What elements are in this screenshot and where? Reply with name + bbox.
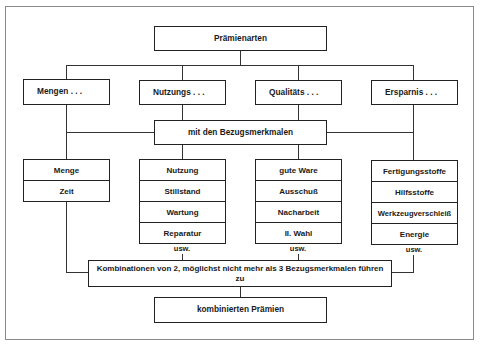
combination-box: Kombinationen von 2, möglichst nicht meh… [88,260,392,287]
category-label: Ersparnis . . . [385,88,437,98]
connector-line [413,105,414,160]
connector-line [327,132,413,133]
list-item: Menge [24,160,109,180]
connector-line [240,51,241,65]
list-item: Energie [372,223,457,244]
etc-label: usw. [278,244,318,253]
connector-line [182,145,183,159]
reference-criteria-label: mit den Bezugsmerkmalen [188,128,293,138]
list-item: Nutzung [140,160,225,180]
criteria-list-qualitaet: gute Ware Ausschuß Nacharbeit II. Wahl [255,159,342,244]
connector-line [66,202,67,272]
connector-line [240,287,241,297]
criteria-list-mengen: Menge Zeit [23,159,110,202]
category-box-qualitaets: Qualitäts . . . [255,80,342,105]
category-label: Mengen . . . [37,87,82,97]
list-item: II. Wahl [256,222,341,243]
list-item: gute Ware [256,160,341,180]
reference-criteria-box: mit den Bezugsmerkmalen [154,120,327,145]
category-box-mengen: Mengen . . . [23,79,110,105]
list-item: Reparatur [140,222,225,243]
combination-label: Kombinationen von 2, möglichst nicht meh… [95,264,385,283]
list-item: Wartung [140,201,225,222]
connector-line [298,65,299,80]
category-label: Nutzungs . . . [153,88,205,98]
connector-line [66,132,154,133]
connector-line [66,65,67,79]
category-box-nutzungs: Nutzungs . . . [139,80,226,105]
result-label: kombinierten Prämien [197,305,284,315]
list-item: Hilfsstoffe [372,181,457,202]
connector-line [298,145,299,159]
list-item: Nacharbeit [256,201,341,222]
criteria-list-ersparnis: Fertigungsstoffe Hilfsstoffe Werkzeugver… [371,160,458,245]
etc-label: usw. [394,245,434,254]
category-label: Qualitäts . . . [269,88,318,98]
list-item: Werkzeugverschleiß [372,202,457,223]
etc-label: usw. [162,244,202,253]
connector-line [182,65,183,80]
criteria-list-nutzung: Nutzung Stillstand Wartung Reparatur [139,159,226,244]
connector-line [66,65,414,66]
connector-line [182,105,183,120]
list-item: Stillstand [140,180,225,201]
result-box: kombinierten Prämien [154,297,327,323]
connector-line [413,255,414,272]
category-box-ersparnis: Ersparnis . . . [371,80,458,105]
title-label: Prämienarten [214,34,267,44]
list-item: Zeit [24,180,109,201]
list-item: Fertigungsstoffe [372,161,457,181]
connector-line [392,272,414,273]
connector-line [298,105,299,120]
connector-line [66,272,88,273]
title-box: Prämienarten [154,26,327,51]
list-item: Ausschuß [256,180,341,201]
connector-line [413,65,414,80]
